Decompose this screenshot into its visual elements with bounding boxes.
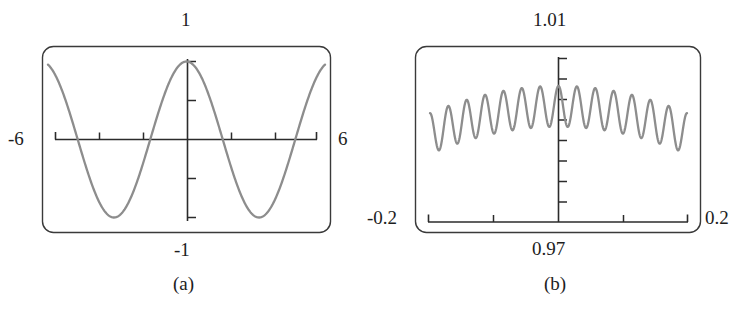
label-a-top: 1 [181, 10, 191, 29]
panel-a-graph [0, 0, 375, 310]
label-b-right: 0.2 [705, 208, 729, 227]
panel-b: 1.01 0.97 -0.2 0.2 (b) [375, 0, 750, 310]
label-a-bottom: -1 [174, 240, 190, 259]
label-b-bottom: 0.97 [532, 239, 565, 258]
panel-b-graph [375, 0, 750, 310]
label-a-left: -6 [8, 129, 24, 148]
figure-two-panel-plot: 1 -1 -6 6 (a) [0, 0, 750, 310]
label-a-right: 6 [338, 129, 348, 148]
label-b-left: -0.2 [367, 208, 397, 227]
panel-a: 1 -1 -6 6 (a) [0, 0, 375, 310]
caption-a: (a) [173, 273, 194, 295]
label-b-top: 1.01 [533, 10, 566, 29]
caption-b: (b) [544, 273, 566, 295]
